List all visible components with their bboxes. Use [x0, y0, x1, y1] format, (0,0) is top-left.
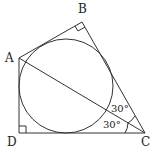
- diagram-figure: [0, 0, 160, 147]
- quadrilateral-abcd: [19, 22, 145, 133]
- angle-arc-bca: [128, 116, 135, 123]
- right-angle-mark-d: [19, 126, 26, 133]
- vertex-label-d: D: [7, 136, 17, 147]
- vertex-label-b: B: [78, 3, 87, 15]
- vertex-label-c: C: [141, 136, 150, 147]
- angle-arc-acd: [125, 123, 128, 133]
- angle-label-acd: 30°: [103, 120, 121, 130]
- angle-label-bca: 30°: [111, 104, 129, 114]
- diagonal-ac: [19, 58, 145, 133]
- geometry-diagram: B A D C 30° 30°: [0, 0, 160, 147]
- right-angle-mark-b: [75, 26, 85, 31]
- vertex-label-a: A: [5, 52, 14, 64]
